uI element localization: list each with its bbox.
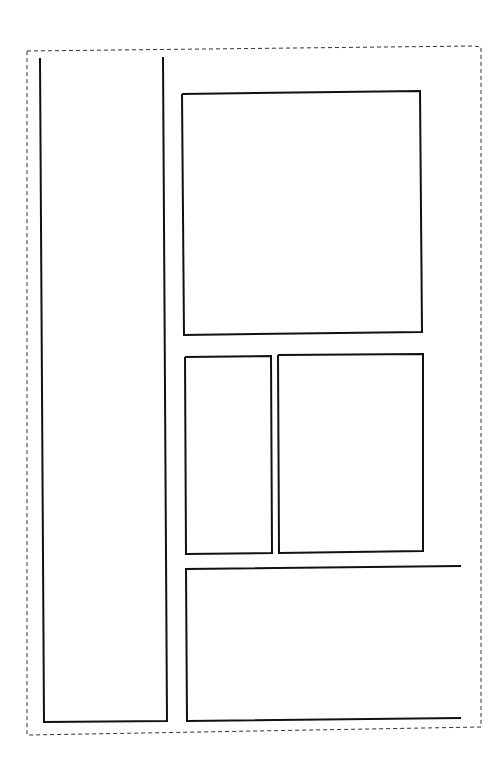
layout-diagram [0,0,501,773]
panel-group [40,57,461,722]
left-column-panel [40,57,167,722]
middle-left-panel [185,356,272,554]
outer-dashed-frame [27,46,481,735]
top-right-panel [182,91,422,335]
middle-right-panel [278,354,423,553]
bottom-wide-panel [186,566,461,721]
